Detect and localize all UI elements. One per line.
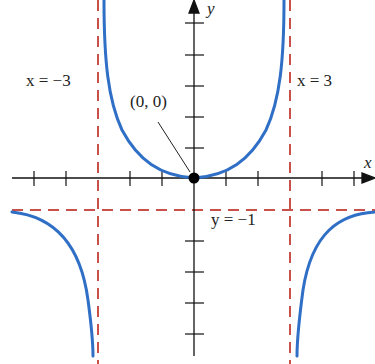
curve-left-branch [12,212,93,356]
point-label: (0, 0) [130,92,167,111]
curve-right-branch [297,212,375,356]
y-axis-arrow-icon [189,0,199,13]
origin-point [189,173,200,184]
y-axis-label: y [205,0,215,18]
point-pointer-line [158,122,190,172]
x-axis-arrow-icon [362,173,375,183]
graph-canvas: (0, 0) x = −3 x = 3 y = −1 y x [0,0,375,364]
asymptote-label-y-neg1: y = −1 [211,210,256,229]
asymptote-label-x-3: x = 3 [297,71,332,90]
x-axis-label: x [363,153,372,172]
asymptote-label-x-neg3: x = −3 [26,71,71,90]
